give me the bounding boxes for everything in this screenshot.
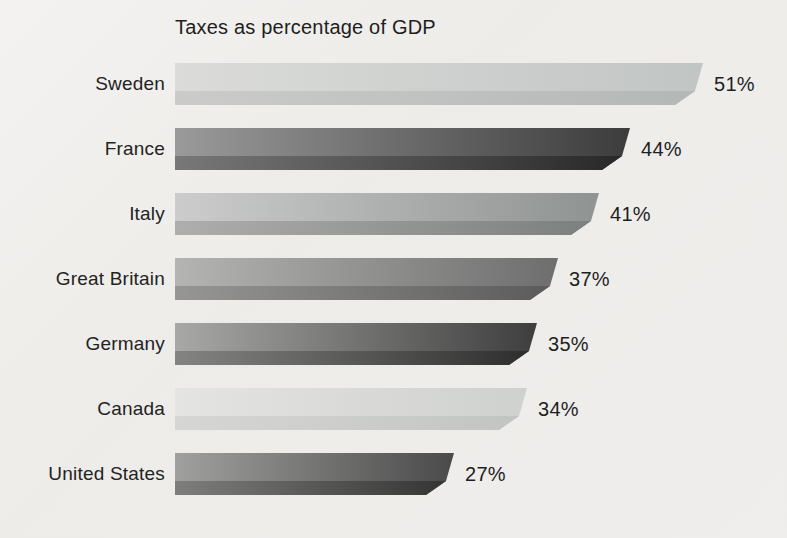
- value-label-france: 44%: [641, 138, 682, 161]
- bar-shade: [175, 416, 527, 430]
- category-label-united-states: United States: [0, 463, 175, 485]
- category-label-great-britain: Great Britain: [0, 268, 175, 290]
- bar-shade: [175, 156, 630, 170]
- bar-shade: [175, 351, 537, 365]
- bar-rows: Sweden 51% France 44% Italy 41% Great Br…: [0, 63, 787, 495]
- chart-canvas: Taxes as percentage of GDP Sweden 51% Fr…: [0, 0, 787, 538]
- value-label-canada: 34%: [538, 398, 579, 421]
- bar-united-states: [175, 453, 454, 495]
- bar-sweden: [175, 63, 703, 105]
- value-label-italy: 41%: [610, 203, 651, 226]
- chart-row-great-britain: Great Britain 37%: [0, 258, 787, 300]
- chart-row-germany: Germany 35%: [0, 323, 787, 365]
- chart-row-france: France 44%: [0, 128, 787, 170]
- bar-italy: [175, 193, 599, 235]
- value-label-sweden: 51%: [714, 73, 755, 96]
- category-label-canada: Canada: [0, 398, 175, 420]
- bar-canada: [175, 388, 527, 430]
- chart-row-united-states: United States 27%: [0, 453, 787, 495]
- category-label-france: France: [0, 138, 175, 160]
- value-label-great-britain: 37%: [569, 268, 610, 291]
- category-label-sweden: Sweden: [0, 73, 175, 95]
- chart-title: Taxes as percentage of GDP: [175, 15, 787, 39]
- bar-shade: [175, 481, 454, 495]
- bar-shade: [175, 91, 703, 105]
- chart-row-italy: Italy 41%: [0, 193, 787, 235]
- bar-great-britain: [175, 258, 558, 300]
- bar-shade: [175, 221, 599, 235]
- bar-germany: [175, 323, 537, 365]
- chart-row-sweden: Sweden 51%: [0, 63, 787, 105]
- value-label-united-states: 27%: [465, 463, 506, 486]
- chart-row-canada: Canada 34%: [0, 388, 787, 430]
- category-label-italy: Italy: [0, 203, 175, 225]
- value-label-germany: 35%: [548, 333, 589, 356]
- bar-france: [175, 128, 630, 170]
- category-label-germany: Germany: [0, 333, 175, 355]
- bar-shade: [175, 286, 558, 300]
